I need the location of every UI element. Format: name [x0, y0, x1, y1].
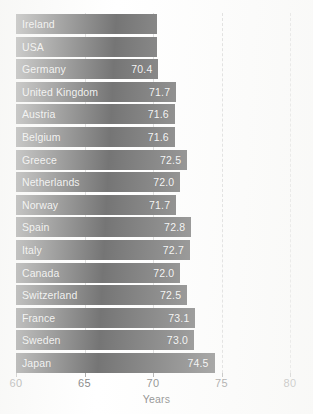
bar-row: Switzerland72.5 — [16, 285, 290, 305]
bar[interactable]: Sweden73.0 — [16, 330, 194, 350]
bar[interactable]: Austria71.6 — [16, 104, 175, 124]
bar-row: Italy72.7 — [16, 240, 290, 260]
bar[interactable]: USA — [16, 37, 157, 57]
bar-row: Netherlands72.0 — [16, 172, 290, 192]
bar-row: Spain72.8 — [16, 217, 290, 237]
bar-category-label: Switzerland — [22, 289, 77, 301]
bar-row: Belgium71.6 — [16, 127, 290, 147]
bar-row: Ireland — [16, 14, 290, 34]
bar-chart: IrelandUSAGermany70.4United Kingdom71.7A… — [0, 0, 313, 414]
bar-value-label: 73.0 — [167, 334, 188, 346]
bar-value-label: 71.6 — [148, 108, 169, 120]
bar-category-label: Netherlands — [22, 176, 80, 188]
bar[interactable]: Belgium71.6 — [16, 127, 175, 147]
bar[interactable]: France73.1 — [16, 308, 195, 328]
x-axis-tick-label: 75 — [215, 377, 228, 389]
x-axis-title: Years — [0, 393, 313, 405]
bar-category-label: Spain — [22, 221, 49, 233]
bar[interactable]: Germany70.4 — [16, 59, 158, 79]
bar[interactable]: Greece72.5 — [16, 150, 187, 170]
bar[interactable]: Spain72.8 — [16, 217, 191, 237]
bar[interactable]: Italy72.7 — [16, 240, 190, 260]
bar-value-label: 73.1 — [168, 312, 189, 324]
bar-value-label: 72.5 — [160, 154, 181, 166]
bar-category-label: Sweden — [22, 334, 61, 346]
bar-category-label: Ireland — [22, 18, 55, 30]
bar-row: Greece72.5 — [16, 150, 290, 170]
x-axis-tick-label: 70 — [147, 377, 160, 389]
bar-value-label: 72.0 — [153, 267, 174, 279]
bar-row: Sweden73.0 — [16, 330, 290, 350]
bar-row: Norway71.7 — [16, 195, 290, 215]
x-axis-tick-label: 60 — [10, 377, 23, 389]
bar[interactable]: United Kingdom71.7 — [16, 82, 176, 102]
bar[interactable]: Japan74.5 — [16, 353, 215, 373]
bar-category-label: USA — [22, 41, 44, 53]
bar-category-label: Germany — [22, 63, 66, 75]
bar-value-label: 72.8 — [164, 221, 185, 233]
bar-category-label: Italy — [22, 244, 42, 256]
x-axis-tick-label: 65 — [78, 377, 91, 389]
bar-category-label: Greece — [22, 154, 57, 166]
bar-category-label: Austria — [22, 108, 55, 120]
bar-value-label: 72.7 — [163, 244, 184, 256]
bar[interactable]: Switzerland72.5 — [16, 285, 187, 305]
bar-category-label: United Kingdom — [22, 86, 98, 98]
bar-value-label: 71.7 — [149, 199, 170, 211]
bar-row: Austria71.6 — [16, 104, 290, 124]
bar[interactable]: Canada72.0 — [16, 263, 180, 283]
bar-value-label: 71.6 — [148, 131, 169, 143]
x-axis-tick-label: 80 — [284, 377, 297, 389]
bar-row: Japan74.5 — [16, 353, 290, 373]
bar-value-label: 70.4 — [131, 63, 152, 75]
gridline — [290, 13, 291, 373]
bar-category-label: Japan — [22, 357, 51, 369]
bar-row: United Kingdom71.7 — [16, 82, 290, 102]
bar-value-label: 74.5 — [187, 357, 208, 369]
bar-category-label: Norway — [22, 199, 58, 211]
bar[interactable]: Norway71.7 — [16, 195, 176, 215]
bar[interactable]: Ireland — [16, 14, 157, 34]
plot-area: IrelandUSAGermany70.4United Kingdom71.7A… — [16, 13, 290, 373]
bar-row: Canada72.0 — [16, 263, 290, 283]
bar-value-label: 72.0 — [153, 176, 174, 188]
bar-row: Germany70.4 — [16, 59, 290, 79]
bar-row: USA — [16, 37, 290, 57]
bar-category-label: Belgium — [22, 131, 61, 143]
bar-value-label: 72.5 — [160, 289, 181, 301]
bar-value-label: 71.7 — [149, 86, 170, 98]
bar[interactable]: Netherlands72.0 — [16, 172, 180, 192]
bar-category-label: France — [22, 312, 55, 324]
bar-row: France73.1 — [16, 308, 290, 328]
bar-category-label: Canada — [22, 267, 59, 279]
